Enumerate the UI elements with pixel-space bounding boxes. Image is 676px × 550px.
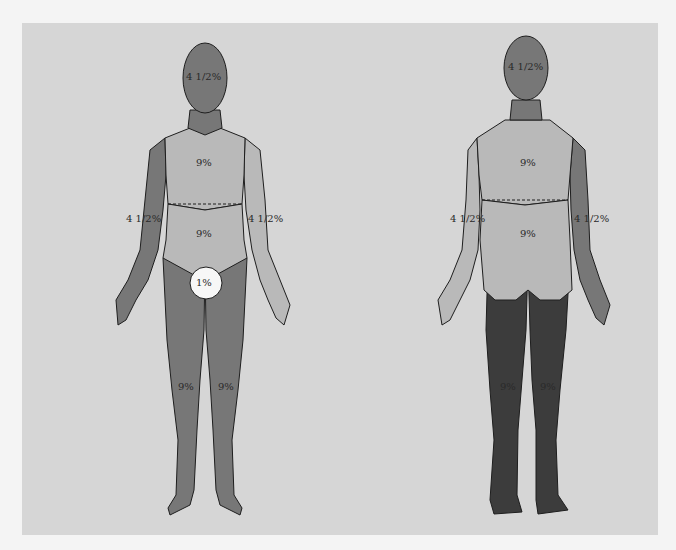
back-left-leg-label: 9%: [500, 381, 516, 392]
front-left-arm: [244, 138, 290, 325]
back-trunk-lower: [480, 200, 572, 300]
rule-of-nines-figures: 4 1/2% 9% 9% 4 1/2% 4 1/2% 1% 9% 9% 4 1/…: [0, 0, 676, 550]
back-trunk-lower-label: 9%: [520, 228, 536, 239]
front-trunk-upper-label: 9%: [196, 157, 212, 168]
back-figure: [438, 36, 610, 514]
front-right-arm: [116, 138, 166, 325]
front-right-arm-label: 4 1/2%: [126, 213, 161, 224]
back-left-arm: [438, 138, 480, 325]
front-head-label: 4 1/2%: [186, 71, 221, 82]
back-right-leg-label: 9%: [540, 381, 556, 392]
back-right-arm: [570, 138, 610, 325]
front-genital-label: 1%: [196, 277, 212, 288]
front-trunk-lower-label: 9%: [196, 228, 212, 239]
front-left-arm-label: 4 1/2%: [248, 213, 283, 224]
back-right-arm-label: 4 1/2%: [574, 213, 609, 224]
back-head-label: 4 1/2%: [508, 61, 543, 72]
back-neck: [510, 100, 542, 120]
front-trunk-upper: [165, 128, 245, 210]
back-trunk-upper-label: 9%: [520, 157, 536, 168]
back-left-arm-label: 4 1/2%: [450, 213, 485, 224]
front-left-leg-label: 9%: [218, 381, 234, 392]
front-right-leg-label: 9%: [178, 381, 194, 392]
